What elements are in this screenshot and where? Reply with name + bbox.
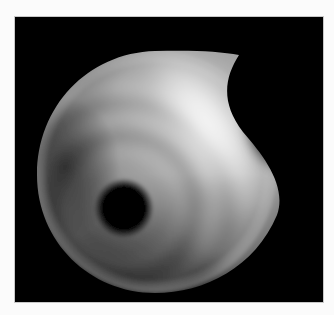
rendered-disk-figure bbox=[15, 17, 323, 302]
image-frame bbox=[15, 17, 323, 302]
